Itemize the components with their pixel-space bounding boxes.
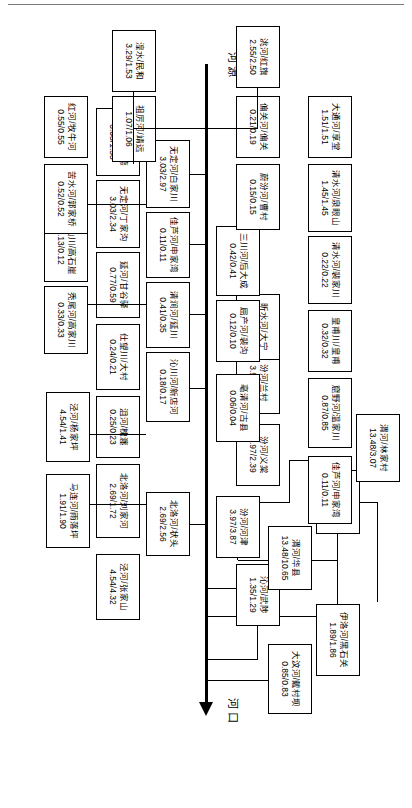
node-n37[interactable]: 清水河/泉眼山 1.45/1.45 <box>308 164 352 232</box>
node-value: 13.48/10.65 <box>279 536 290 581</box>
node-name: 屈产河/裴沟 <box>238 307 249 354</box>
node-value: 0.12/0.10 <box>227 313 238 348</box>
node-name: 洮河/红旗 <box>258 38 269 76</box>
node-n25b[interactable]: 佳芦河/申家湾 0.11/0.11 <box>146 212 190 278</box>
connector <box>90 504 146 505</box>
node-value: 0.13/0.12 <box>55 229 66 264</box>
node-n03[interactable]: 渭河/华县 13.48/10.65 <box>268 526 312 590</box>
node-value: 3.97/3.87 <box>227 509 238 544</box>
node-value: 13.48/3.07 <box>367 428 378 468</box>
node-name: 仕望川/大村 <box>118 333 129 380</box>
node-value: 3.03/2.34 <box>107 196 118 231</box>
node-n21[interactable]: 北洛河/刘家河 2.69/1.72 <box>96 464 140 538</box>
node-n05[interactable]: 伊洛河/黑石关 1.89/1.86 <box>316 604 360 676</box>
node-value: 4.54/4.32 <box>107 569 118 604</box>
node-value: 0.42/0.41 <box>227 243 238 278</box>
node-name: 渭河/华县 <box>290 539 301 577</box>
node-name: 红河/牧牛河 <box>66 103 77 150</box>
node-n02[interactable]: 大汶河/戴村坝 0.85/0.83 <box>268 644 312 714</box>
node-name: 秃尾河/高家川 <box>66 292 77 348</box>
node-n16b[interactable]: 清涧河/延川 0.41/0.35 <box>146 282 190 348</box>
node-n14[interactable]: 泾河/杨家坪 4.54/1.41 <box>46 392 90 462</box>
connector <box>207 474 208 475</box>
node-name: 三川河/后大成 <box>238 233 249 289</box>
node-n23[interactable]: 屈产河/裴沟 0.12/0.10 <box>216 300 260 362</box>
connector <box>207 644 208 645</box>
node-value: 0.11/0.11 <box>157 228 168 262</box>
node-value: 0.85/0.83 <box>279 661 290 696</box>
node-value: 1.51/1.51 <box>319 109 330 144</box>
node-n33[interactable]: 清水河/裴家川 0.22/0.22 <box>308 236 352 304</box>
connector <box>190 244 208 245</box>
node-value: 3.03/2.97 <box>157 156 168 191</box>
connector <box>190 174 208 175</box>
node-n29[interactable]: 蔚汾河/曹村 0.15/0.15 <box>236 164 280 230</box>
node-value: 1.89/1.86 <box>327 622 338 657</box>
connector <box>190 524 208 525</box>
connector <box>133 128 134 164</box>
node-n22[interactable]: 三川河/后大成 0.42/0.41 <box>216 226 260 296</box>
node-name: 亳清河/古县 <box>238 384 249 431</box>
node-n41[interactable]: 祖厉河/靖远 1.07/1.06 <box>112 96 156 162</box>
node-n17[interactable]: 沁川河/新店河 0.18/0.17 <box>146 352 190 422</box>
node-name: 北洛河/刘家河 <box>118 473 129 529</box>
node-name: 无定河/丁家沟 <box>118 186 129 242</box>
node-n40[interactable]: 湟水/民和 3.29/1.53 <box>112 30 156 92</box>
node-n31[interactable]: 秃尾河/高家川 0.33/0.33 <box>44 286 88 354</box>
connector <box>190 314 208 315</box>
node-n08[interactable]: 汾河/河津 3.97/3.87 <box>216 496 260 558</box>
node-value: 0.41/0.35 <box>157 297 168 332</box>
node-value: 2.69/1.72 <box>107 483 118 518</box>
node-name: 大汶河/戴村坝 <box>290 651 301 707</box>
node-n42b[interactable]: 洮河/红旗 2.55/2.50 <box>236 26 280 88</box>
connector <box>257 88 258 128</box>
node-n39[interactable]: 大通河/享堂 1.51/1.51 <box>308 96 352 158</box>
node-n13[interactable]: 马连河/雨落坪 1.91/1.90 <box>46 474 90 548</box>
node-name: 清涧河/延川 <box>168 291 179 338</box>
node-n30[interactable]: 窟野河/温家川 0.87/0.85 <box>308 378 352 448</box>
node-n11b[interactable]: 北洛河/状头 2.69/2.56 <box>146 492 190 556</box>
node-name: 湟水/民和 <box>134 42 145 80</box>
node-n38[interactable]: 苦水河/郭家桥 0.52/0.52 <box>44 164 88 234</box>
node-name: 窟野河/温家川 <box>330 385 341 441</box>
node-name: 蔚汾河/曹村 <box>258 173 269 220</box>
node-value: 0.25/0.23 <box>107 409 118 444</box>
figure-page: 河口 河源 沁河/武陟 <box>0 0 412 808</box>
node-name: 泾河/杨家坪 <box>68 403 79 450</box>
node-value: 1.91/1.90 <box>57 493 68 528</box>
node-n12[interactable]: 泾河/张家山 4.54/4.32 <box>96 554 140 620</box>
node-n10[interactable]: 亳清河/古县 0.06/0.04 <box>216 374 260 442</box>
node-n18[interactable]: 仕望川/大村 0.24/0.21 <box>96 324 140 390</box>
estuary-label: 河口 <box>226 698 242 726</box>
node-n27[interactable]: 无定河/丁家沟 3.03/2.34 <box>96 180 140 248</box>
node-value: 0.18/0.17 <box>157 369 168 404</box>
node-name: 大通河/享堂 <box>330 103 341 150</box>
connector <box>190 388 208 389</box>
node-name: 无定河/白家川 <box>168 146 179 202</box>
connector <box>88 204 146 205</box>
node-n06[interactable]: 渭河/林家村 13.48/3.07 <box>356 414 400 482</box>
node-value: 0.33/0.33 <box>55 302 66 337</box>
node-value: 0.55/0.55 <box>55 109 66 144</box>
node-name: 苦水河/郭家桥 <box>66 171 77 227</box>
node-name: 汾河/河津 <box>238 508 249 546</box>
node-n36[interactable]: 红河/牧牛河 0.55/0.55 <box>44 96 88 158</box>
node-name: 渭河/林家村 <box>378 424 389 471</box>
node-n35[interactable]: 偏关河/偏关 0.21/0.19 <box>236 96 280 158</box>
node-n20[interactable]: 沮河/槐瀍 0.25/0.23 <box>96 396 140 458</box>
main-stem-arrowhead <box>200 702 214 716</box>
connector <box>133 92 134 128</box>
node-n19[interactable]: 延河/甘谷驿 0.77/0.59 <box>96 252 140 318</box>
connector <box>134 128 208 129</box>
node-n34[interactable]: 皇甫川/皇甫 0.32/0.32 <box>308 310 352 372</box>
node-name: 北洛河/状头 <box>168 500 179 547</box>
node-name: 沁川河/新店河 <box>168 359 179 415</box>
node-name: 清水河/裴家川 <box>330 242 341 298</box>
connector <box>289 460 290 503</box>
node-n25[interactable]: 佳芦河/申家湾 0.11/0.11 <box>308 456 352 524</box>
node-name: 祖厉河/靖远 <box>134 105 145 152</box>
node-name: 泾河/张家山 <box>118 563 129 610</box>
node-value: 3.97/2.39 <box>247 437 258 472</box>
node-value: 0.15/0.15 <box>247 179 258 214</box>
node-name: 佳芦河/申家湾 <box>168 217 179 273</box>
